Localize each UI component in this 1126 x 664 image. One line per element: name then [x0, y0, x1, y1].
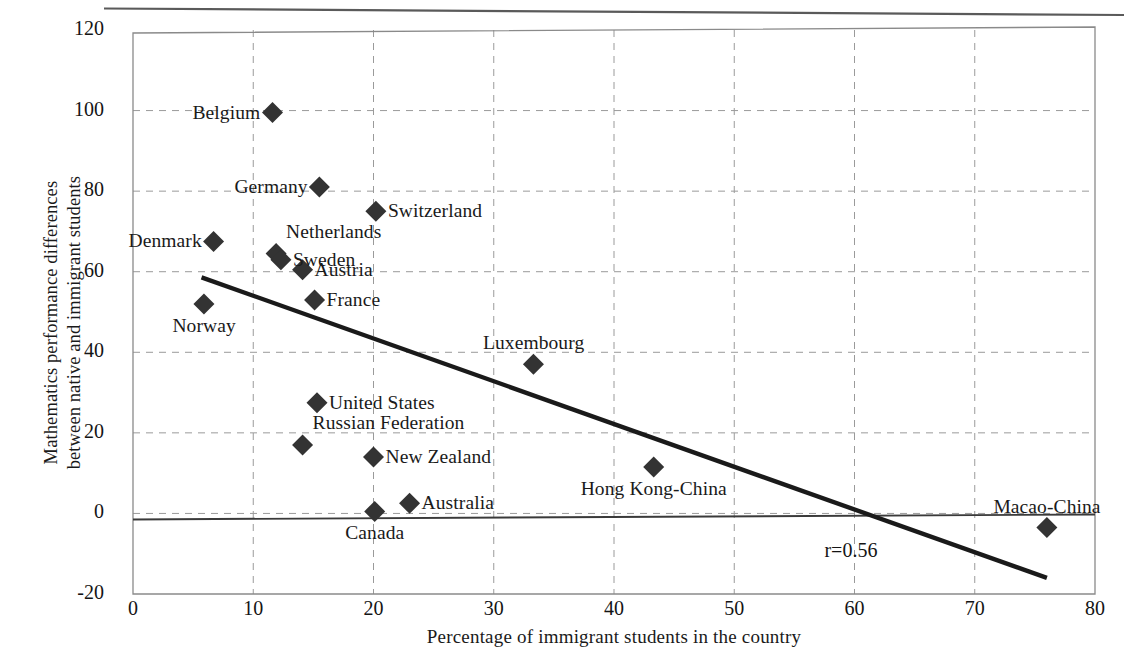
- point-label-denmark: Denmark: [129, 230, 202, 252]
- point-label-united-states: United States: [329, 392, 435, 414]
- point-label-luxembourg: Luxembourg: [483, 332, 584, 354]
- point-label-switzerland: Switzerland: [388, 200, 482, 222]
- data-point-norway: [193, 293, 214, 314]
- y-tick-label-80: 80: [42, 178, 104, 201]
- data-point-australia: [399, 493, 420, 514]
- point-label-australia: Australia: [422, 492, 494, 514]
- point-label-france: France: [327, 289, 381, 311]
- x-tick-label-70: 70: [945, 597, 1005, 620]
- y-tick-label-40: 40: [42, 339, 104, 362]
- point-label-belgium: Belgium: [192, 102, 260, 124]
- x-tick-label-10: 10: [223, 597, 283, 620]
- data-point-new-zealand: [363, 447, 384, 468]
- x-tick-label-40: 40: [584, 597, 644, 620]
- correlation-annotation: r=0.56: [824, 539, 877, 562]
- point-label-canada: Canada: [345, 522, 404, 544]
- point-label-austria: Austria: [315, 259, 373, 281]
- y-tick-label-0: 0: [42, 500, 104, 523]
- point-label-germany: Germany: [234, 176, 307, 198]
- data-point-hong-kong-china: [643, 457, 664, 478]
- x-tick-label-50: 50: [704, 597, 764, 620]
- scatter-chart-figure: Mathematics performance differences betw…: [0, 0, 1126, 664]
- point-label-norway: Norway: [172, 315, 235, 337]
- data-point-united-states: [306, 392, 327, 413]
- y-tick-label-120: 120: [42, 17, 104, 40]
- data-point-russian-federation: [292, 434, 313, 455]
- data-point-switzerland: [365, 201, 386, 222]
- y-tick-label-neg20: -20: [42, 581, 104, 604]
- x-tick-label-20: 20: [344, 597, 404, 620]
- x-tick-label-30: 30: [464, 597, 524, 620]
- data-point-france: [304, 289, 325, 310]
- y-tick-label-100: 100: [42, 98, 104, 121]
- point-label-netherlands: Netherlands: [286, 221, 381, 243]
- y-tick-label-20: 20: [42, 420, 104, 443]
- x-tick-label-60: 60: [825, 597, 885, 620]
- data-point-denmark: [203, 231, 224, 252]
- y-tick-label-60: 60: [42, 259, 104, 282]
- data-point-belgium: [262, 102, 283, 123]
- point-label-new-zealand: New Zealand: [386, 446, 492, 468]
- data-point-luxembourg: [523, 354, 544, 375]
- data-point-macao-china: [1036, 517, 1057, 538]
- x-tick-label-80: 80: [1065, 597, 1125, 620]
- data-point-germany: [309, 177, 330, 198]
- x-tick-label-0: 0: [103, 597, 163, 620]
- point-label-hong-kong-china: Hong Kong-China: [581, 478, 727, 500]
- point-label-russian-federation: Russian Federation: [313, 412, 465, 434]
- point-label-macao-china: Macao-China: [993, 496, 1100, 518]
